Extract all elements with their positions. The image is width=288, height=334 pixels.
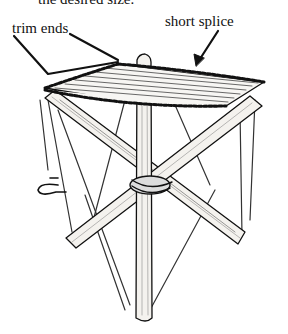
seat-slats — [45, 64, 264, 106]
splice-arrow-icon — [194, 31, 218, 66]
rope-knot-icon — [38, 178, 66, 194]
center-lashing — [130, 176, 172, 194]
stool-illustration — [0, 0, 288, 334]
